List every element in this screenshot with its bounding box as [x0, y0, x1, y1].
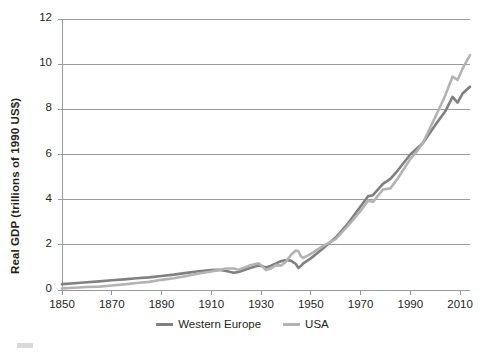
y-tick-label: 12 — [26, 11, 52, 23]
x-tick-label: 1850 — [42, 298, 82, 310]
legend-swatch-icon — [283, 323, 300, 326]
y-tick-label: 0 — [26, 282, 52, 294]
series-line-usa — [62, 55, 470, 288]
footer-mark — [17, 343, 33, 348]
x-tick-label: 1990 — [390, 298, 430, 310]
chart-legend: Western EuropeUSA — [0, 318, 485, 330]
y-tick-label: 6 — [26, 147, 52, 159]
x-tick-label: 1970 — [341, 298, 381, 310]
y-tick-label: 2 — [26, 237, 52, 249]
legend-swatch-icon — [156, 323, 173, 326]
series-line-western-europe — [62, 87, 470, 284]
x-tick-label: 1870 — [92, 298, 132, 310]
legend-item-usa[interactable]: USA — [283, 318, 329, 330]
x-tick-label: 1910 — [191, 298, 231, 310]
x-tick-label: 2010 — [440, 298, 480, 310]
y-tick-label: 8 — [26, 101, 52, 113]
y-tick-label: 4 — [26, 192, 52, 204]
gdp-line-chart: Real GDP (trillions of 1990 US$) Western… — [0, 0, 485, 354]
y-tick-label: 10 — [26, 56, 52, 68]
legend-item-western-europe[interactable]: Western Europe — [156, 318, 261, 330]
x-tick-label: 1930 — [241, 298, 281, 310]
legend-item-label: USA — [305, 318, 329, 330]
x-tick-label: 1890 — [142, 298, 182, 310]
legend-item-label: Western Europe — [178, 318, 261, 330]
x-tick-label: 1950 — [291, 298, 331, 310]
